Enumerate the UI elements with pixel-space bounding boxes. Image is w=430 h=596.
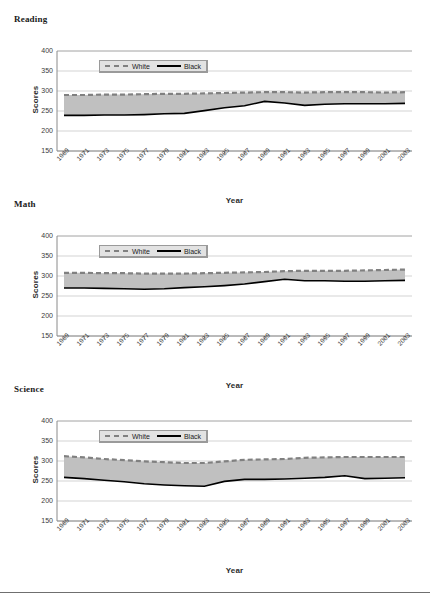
legend-label-white: White xyxy=(132,248,150,255)
legend-item-black[interactable]: Black xyxy=(157,433,201,440)
chart-legend[interactable]: WhiteBlack xyxy=(99,430,208,443)
legend-swatch-white-icon xyxy=(105,433,129,439)
legend-item-white[interactable]: White xyxy=(105,63,150,70)
plot-canvas-science xyxy=(0,384,430,564)
plot-canvas-math xyxy=(0,199,430,379)
chart-legend[interactable]: WhiteBlack xyxy=(99,60,208,73)
chart-panel-science: ScienceScores400350300250200150196919711… xyxy=(0,384,430,564)
legend-item-white[interactable]: White xyxy=(105,248,150,255)
legend-item-black[interactable]: Black xyxy=(157,248,201,255)
figure-page: ReadingScores400350300250200150196919711… xyxy=(0,0,430,596)
legend-label-white: White xyxy=(132,63,150,70)
legend-swatch-black-icon xyxy=(157,63,181,69)
plot-canvas-reading xyxy=(0,14,430,194)
legend-swatch-black-icon xyxy=(157,433,181,439)
legend-label-black: Black xyxy=(184,248,201,255)
legend-label-white: White xyxy=(132,433,150,440)
legend-item-black[interactable]: Black xyxy=(157,63,201,70)
legend-swatch-white-icon xyxy=(105,63,129,69)
legend-swatch-black-icon xyxy=(157,248,181,254)
legend-item-white[interactable]: White xyxy=(105,433,150,440)
x-axis-label: Year xyxy=(57,566,412,575)
chart-panel-reading: ReadingScores400350300250200150196919711… xyxy=(0,14,430,194)
legend-swatch-white-icon xyxy=(105,248,129,254)
page-bottom-rule xyxy=(0,592,430,593)
legend-label-black: Black xyxy=(184,433,201,440)
legend-label-black: Black xyxy=(184,63,201,70)
chart-legend[interactable]: WhiteBlack xyxy=(99,245,208,258)
chart-panel-math: MathScores400350300250200150196919711973… xyxy=(0,199,430,379)
